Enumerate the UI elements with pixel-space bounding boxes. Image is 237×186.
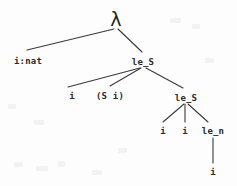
- tree-node-i2: i: [160, 127, 166, 136]
- tree-node-root: λ: [110, 10, 121, 29]
- tree-node-i4: i: [210, 168, 216, 177]
- tree-node-i3: i: [182, 127, 188, 136]
- tree-node-inat: i:nat: [14, 57, 42, 66]
- tree-edge-leS1-to-leS2: [146, 68, 183, 88]
- tree-node-len: le_n: [202, 127, 224, 136]
- tree-edge-leS1-to-i1: [68, 68, 140, 87]
- tree-edge-leS1-to-si: [110, 68, 141, 86]
- tree-edge-leS2-to-i2: [163, 104, 184, 122]
- tree-node-i1: i: [69, 92, 75, 101]
- tree-edge-root-to-leS1: [118, 29, 142, 52]
- tree-node-si: (S i): [96, 92, 124, 101]
- tree-edge-leS2-to-len: [188, 104, 208, 122]
- tree-edge-root-to-inat: [27, 29, 114, 50]
- tree-node-leS2: le_S: [175, 94, 197, 103]
- tree-diagram-figure: λi:natle_Si(S i)le_Siile_ni: [0, 0, 237, 186]
- tree-node-leS1: le_S: [132, 58, 154, 67]
